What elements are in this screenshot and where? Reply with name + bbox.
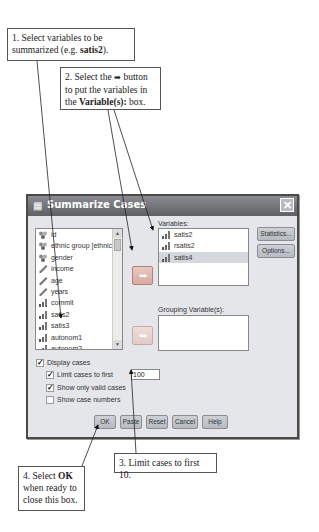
checkbox-label: Limit cases to first	[57, 370, 113, 380]
callout-text: box.	[127, 97, 146, 107]
callout-bold-text: satis2	[80, 45, 103, 55]
close-button[interactable]: ✕	[280, 198, 294, 212]
scale-icon	[38, 265, 48, 273]
cancel-button[interactable]: Cancel	[172, 415, 198, 429]
grouping-variables-label: Grouping Variable(s):	[158, 306, 224, 313]
list-item[interactable]: years	[36, 286, 122, 297]
list-item-label: age	[51, 277, 63, 284]
ordinal-icon	[38, 311, 48, 319]
checkmark-icon[interactable]: ✓	[36, 359, 44, 367]
list-item[interactable]: autonom2	[36, 343, 122, 350]
list-item-label: ethnic group [ethnic...	[51, 242, 118, 249]
reset-button[interactable]: Reset	[146, 415, 168, 429]
list-item-label: years	[51, 288, 68, 295]
nominal-icon	[38, 231, 48, 239]
scale-icon	[38, 288, 48, 296]
ok-button[interactable]: OK	[94, 415, 116, 429]
callout-step-1: 1. Select variables to be summarized (e.…	[7, 28, 135, 61]
list-item[interactable]: satis3	[36, 320, 122, 331]
list-item[interactable]: satis2	[36, 309, 122, 320]
source-variable-list[interactable]: idethnic group [ethnic...genderincomeage…	[35, 228, 123, 350]
list-item[interactable]: income	[36, 263, 122, 274]
ordinal-icon	[38, 299, 48, 307]
ordinal-icon	[38, 345, 48, 350]
list-item-label: commit	[51, 299, 74, 306]
move-arrow-icon: ➥	[139, 270, 147, 281]
close-icon: ✕	[283, 199, 292, 211]
list-item-label: satis4	[174, 254, 192, 261]
list-item[interactable]: autonom1	[36, 332, 122, 343]
list-item-label: satis2	[174, 231, 192, 238]
move-to-grouping-button[interactable]: ➥	[132, 326, 153, 345]
dialog-app-icon: ▦	[33, 200, 43, 211]
source-list-scrollbar[interactable]: ▲ ▼	[112, 229, 122, 349]
ordinal-icon	[161, 242, 171, 250]
list-item-label: satis3	[51, 322, 69, 329]
grouping-variables-list[interactable]	[158, 315, 249, 351]
callout-text: ).	[103, 45, 109, 55]
list-item[interactable]: satis2	[159, 229, 248, 240]
list-item[interactable]: age	[36, 275, 122, 286]
ordinal-icon	[38, 322, 48, 330]
callout-step-2: 2. Select the ➡ button to put the variab…	[60, 67, 161, 110]
nominal-icon	[38, 254, 48, 262]
scale-icon	[38, 277, 48, 285]
list-item-label: gender	[51, 254, 73, 261]
move-to-variables-button[interactable]: ➥	[132, 266, 153, 285]
checkbox-label: Show case numbers	[57, 395, 120, 405]
variables-label: Variables:	[158, 220, 189, 227]
checkmark-icon[interactable]: ✓	[46, 384, 54, 392]
list-item-label: income	[51, 265, 74, 272]
move-arrow-icon: ➥	[139, 330, 147, 341]
list-item-label: autonom1	[51, 334, 82, 341]
ordinal-icon	[38, 334, 48, 342]
nominal-icon	[38, 242, 48, 250]
list-item-label: autonom2	[51, 345, 82, 350]
checkmark-icon[interactable]: ✓	[46, 371, 54, 379]
scroll-thumb[interactable]	[114, 239, 121, 251]
dialog-title: Summarize Cases	[47, 199, 146, 210]
paste-button[interactable]: Paste	[120, 415, 142, 429]
callout-text: when ready to close this box.	[23, 483, 78, 505]
ordinal-icon	[161, 231, 171, 239]
checkbox-label: Display cases	[47, 358, 90, 368]
list-item-label: id	[51, 231, 56, 238]
list-item-label: satis2	[51, 311, 69, 318]
list-item[interactable]: satis4	[159, 252, 248, 263]
checkbox-label: Show only valid cases	[57, 383, 126, 393]
checkbox[interactable]	[46, 396, 54, 404]
callout-bold-text: Variable(s):	[79, 97, 127, 107]
help-button[interactable]: Help	[202, 415, 228, 429]
dialog-titlebar[interactable]: ▦ Summarize Cases ✕	[28, 196, 297, 216]
scroll-up-button[interactable]: ▲	[113, 229, 122, 238]
callout-text: 4. Select	[23, 471, 58, 481]
callout-step-4: 4. Select OK when ready to close this bo…	[18, 466, 85, 511]
list-item[interactable]: commit	[36, 297, 122, 308]
scroll-down-button[interactable]: ▼	[113, 340, 122, 349]
variables-list[interactable]: satis2rsatis2satis4	[158, 228, 249, 286]
callout-step-3: 3. Limit cases to first 10.	[114, 453, 217, 473]
ordinal-icon	[161, 254, 171, 262]
list-item[interactable]: rsatis2	[159, 240, 248, 251]
callout-bold-text: OK	[58, 471, 73, 481]
list-item[interactable]: id	[36, 229, 122, 240]
callout-text: 3. Limit cases to first 10.	[119, 458, 199, 480]
list-item[interactable]: ethnic group [ethnic...	[36, 240, 122, 251]
list-item-label: rsatis2	[174, 242, 195, 249]
list-item[interactable]: gender	[36, 252, 122, 263]
limit-cases-input[interactable]	[131, 369, 160, 380]
summarize-cases-dialog: ▦ Summarize Cases ✕ idethnic group [ethn…	[26, 194, 299, 439]
options-button[interactable]: Options...	[257, 244, 295, 258]
statistics-button[interactable]: Statistics...	[257, 227, 295, 241]
callout-text: 2. Select the	[65, 72, 114, 82]
